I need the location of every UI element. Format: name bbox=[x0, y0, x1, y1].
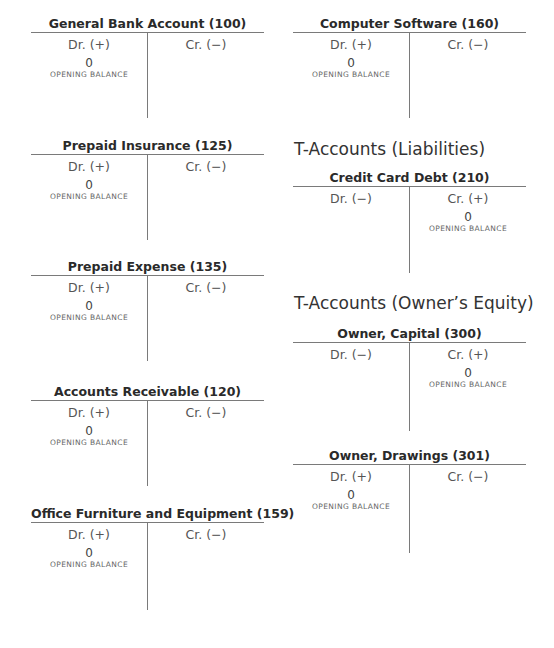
opening-balance-entry: 0 OPENING BALANCE bbox=[31, 179, 147, 202]
entry-label: OPENING BALANCE bbox=[31, 313, 147, 323]
credit-side: Cr. (+) 0 OPENING BALANCE bbox=[410, 347, 526, 390]
debit-label: Dr. (+) bbox=[293, 37, 409, 52]
credit-label: Cr. (−) bbox=[148, 405, 264, 420]
credit-side: Cr. (−) bbox=[410, 37, 526, 52]
entry-amount: 0 bbox=[410, 367, 526, 380]
debit-label: Dr. (+) bbox=[31, 527, 147, 542]
credit-side: Cr. (+) 0 OPENING BALANCE bbox=[410, 191, 526, 234]
entry-label: OPENING BALANCE bbox=[31, 192, 147, 202]
credit-side: Cr. (−) bbox=[148, 405, 264, 420]
debit-side: Dr. (+) 0 OPENING BALANCE bbox=[31, 405, 147, 448]
opening-balance-entry: 0 OPENING BALANCE bbox=[31, 547, 147, 570]
debit-label: Dr. (+) bbox=[31, 159, 147, 174]
entry-amount: 0 bbox=[31, 425, 147, 438]
opening-balance-entry: 0 OPENING BALANCE bbox=[410, 211, 526, 234]
credit-label: Cr. (−) bbox=[148, 527, 264, 542]
credit-label: Cr. (−) bbox=[148, 37, 264, 52]
credit-side: Cr. (−) bbox=[148, 37, 264, 52]
debit-side: Dr. (+) 0 OPENING BALANCE bbox=[31, 159, 147, 202]
entry-label: OPENING BALANCE bbox=[410, 224, 526, 234]
debit-side: Dr. (+) 0 OPENING BALANCE bbox=[31, 280, 147, 323]
debit-label: Dr. (−) bbox=[293, 347, 409, 362]
credit-label: Cr. (−) bbox=[148, 159, 264, 174]
credit-label: Cr. (+) bbox=[410, 347, 526, 362]
entry-label: OPENING BALANCE bbox=[31, 438, 147, 448]
debit-side: Dr. (+) 0 OPENING BALANCE bbox=[31, 527, 147, 570]
opening-balance-entry: 0 OPENING BALANCE bbox=[293, 489, 409, 512]
debit-label: Dr. (−) bbox=[293, 191, 409, 206]
opening-balance-entry: 0 OPENING BALANCE bbox=[293, 57, 409, 80]
debit-side: Dr. (−) bbox=[293, 347, 409, 362]
debit-label: Dr. (+) bbox=[31, 280, 147, 295]
credit-label: Cr. (−) bbox=[410, 37, 526, 52]
debit-side: Dr. (+) 0 OPENING BALANCE bbox=[293, 469, 409, 512]
account-title: Prepaid Insurance (125) bbox=[31, 138, 264, 153]
entry-label: OPENING BALANCE bbox=[410, 380, 526, 390]
entry-label: OPENING BALANCE bbox=[31, 70, 147, 80]
debit-label: Dr. (+) bbox=[31, 405, 147, 420]
account-title: Prepaid Expense (135) bbox=[31, 259, 264, 274]
account-title: Credit Card Debt (210) bbox=[293, 170, 526, 185]
entry-label: OPENING BALANCE bbox=[31, 560, 147, 570]
debit-label: Dr. (+) bbox=[293, 469, 409, 484]
credit-side: Cr. (−) bbox=[148, 159, 264, 174]
entry-label: OPENING BALANCE bbox=[293, 70, 409, 80]
debit-side: Dr. (+) 0 OPENING BALANCE bbox=[31, 37, 147, 80]
credit-label: Cr. (−) bbox=[148, 280, 264, 295]
entry-label: OPENING BALANCE bbox=[293, 502, 409, 512]
opening-balance-entry: 0 OPENING BALANCE bbox=[31, 300, 147, 323]
debit-label: Dr. (+) bbox=[31, 37, 147, 52]
credit-side: Cr. (−) bbox=[148, 280, 264, 295]
entry-amount: 0 bbox=[31, 57, 147, 70]
credit-side: Cr. (−) bbox=[148, 527, 264, 542]
account-title: General Bank Account (100) bbox=[31, 16, 264, 31]
opening-balance-entry: 0 OPENING BALANCE bbox=[31, 57, 147, 80]
credit-side: Cr. (−) bbox=[410, 469, 526, 484]
entry-amount: 0 bbox=[31, 547, 147, 560]
account-title: Computer Software (160) bbox=[293, 16, 526, 31]
entry-amount: 0 bbox=[410, 211, 526, 224]
entry-amount: 0 bbox=[31, 300, 147, 313]
credit-label: Cr. (−) bbox=[410, 469, 526, 484]
section-heading-liabilities: T-Accounts (Liabilities) bbox=[294, 139, 485, 159]
account-title: Office Furniture and Equipment (159) bbox=[31, 506, 264, 521]
account-title: Owner, Capital (300) bbox=[293, 326, 526, 341]
opening-balance-entry: 0 OPENING BALANCE bbox=[31, 425, 147, 448]
opening-balance-entry: 0 OPENING BALANCE bbox=[410, 367, 526, 390]
section-heading-owners-equity: T-Accounts (Owner’s Equity) bbox=[294, 293, 534, 313]
entry-amount: 0 bbox=[31, 179, 147, 192]
credit-label: Cr. (+) bbox=[410, 191, 526, 206]
account-title: Owner, Drawings (301) bbox=[293, 448, 526, 463]
debit-side: Dr. (−) bbox=[293, 191, 409, 206]
debit-side: Dr. (+) 0 OPENING BALANCE bbox=[293, 37, 409, 80]
entry-amount: 0 bbox=[293, 489, 409, 502]
account-title: Accounts Receivable (120) bbox=[31, 384, 264, 399]
entry-amount: 0 bbox=[293, 57, 409, 70]
